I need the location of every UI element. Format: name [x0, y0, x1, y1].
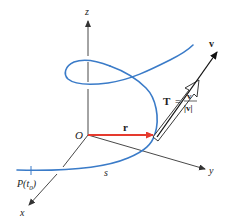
space-curve-diagram: z x y O r v T = v |v| P(t0) s [0, 0, 239, 223]
x-axis-label: x [19, 207, 25, 218]
equals-sign: = [175, 96, 181, 107]
start-point-close: ) [32, 178, 37, 190]
start-point-main: P(t [16, 178, 29, 190]
y-axis-label: y [208, 165, 214, 176]
start-point-label: P(t0) [16, 178, 37, 192]
arc-length-label: s [104, 167, 108, 178]
position-vector-label: r [123, 121, 128, 133]
tangent-symbol: T [163, 95, 171, 107]
fraction-numerator: v [187, 91, 192, 101]
fraction-denominator: |v| [184, 103, 192, 113]
z-axis-label: z [84, 6, 89, 17]
origin-label: O [75, 129, 83, 141]
velocity-vector-label: v [209, 38, 214, 49]
y-axis [88, 135, 205, 169]
space-curve [17, 45, 193, 170]
